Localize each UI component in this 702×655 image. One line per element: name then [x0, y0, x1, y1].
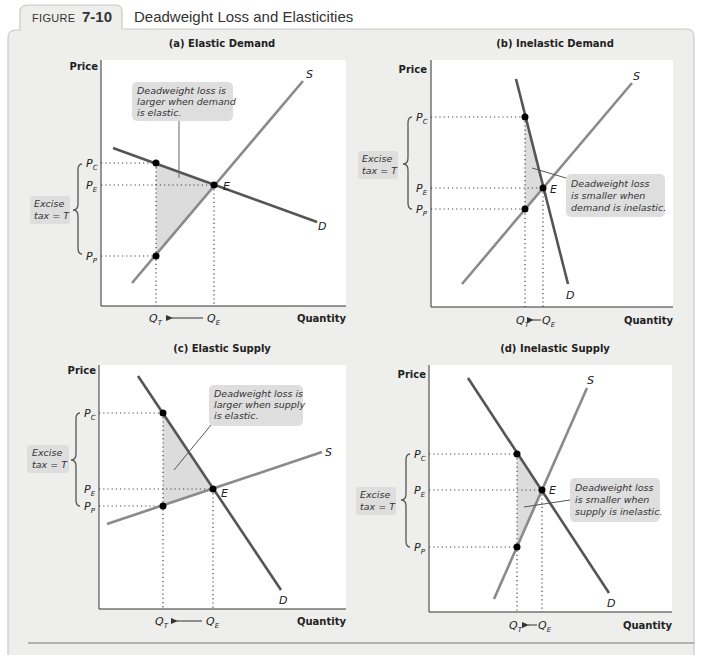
consumer-price-dot	[522, 114, 529, 121]
excise-label: Excise tax = T	[34, 198, 70, 221]
panel-title: (c) Elastic Supply	[173, 343, 271, 354]
y-axis-label: Price	[70, 61, 99, 72]
demand-label: D	[318, 220, 326, 233]
demand-label: D	[607, 597, 615, 610]
x-axis-label: Quantity	[297, 616, 346, 627]
excise-label: Excise tax = T	[362, 153, 398, 176]
equilibrium-dot	[210, 486, 217, 493]
producer-price-dot	[514, 544, 521, 551]
excise-label: Excise tax = T	[360, 489, 396, 512]
excise-label: Excise tax = T	[32, 447, 68, 470]
supply-label: S	[306, 68, 313, 81]
demand-label: D	[566, 289, 574, 302]
callout-text: Deadweight loss is smaller when supply i…	[575, 482, 662, 517]
x-axis-label: Quantity	[624, 315, 673, 326]
consumer-price-dot	[153, 160, 160, 167]
y-axis-label: Price	[68, 365, 97, 376]
panel-title: (a) Elastic Demand	[169, 38, 275, 49]
producer-price-dot	[522, 206, 529, 213]
demand-label: D	[279, 594, 287, 607]
equilibrium-dot	[539, 487, 546, 494]
y-axis-label: Price	[399, 64, 428, 75]
supply-label: S	[325, 446, 332, 459]
panel-title: (b) Inelastic Demand	[496, 38, 614, 49]
equilibrium-dot	[211, 182, 218, 189]
equilibrium-label: E	[550, 183, 557, 196]
supply-label: S	[587, 374, 594, 387]
figure-number: 7-10	[82, 8, 112, 25]
figure-title: Deadweight Loss and Elasticities	[134, 8, 353, 25]
consumer-price-dot	[514, 451, 521, 458]
panel-title: (d) Inelastic Supply	[500, 343, 610, 354]
x-axis-label: Quantity	[297, 313, 346, 324]
x-axis-label: Quantity	[623, 620, 672, 631]
figure-label: FIGURE	[32, 12, 75, 24]
equilibrium-label: E	[223, 180, 230, 193]
producer-price-dot	[160, 503, 167, 510]
producer-price-dot	[153, 253, 160, 260]
equilibrium-label: E	[549, 484, 556, 497]
y-axis-label: Price	[398, 369, 427, 380]
equilibrium-dot	[540, 185, 547, 192]
equilibrium-label: E	[221, 487, 228, 500]
supply-label: S	[633, 70, 640, 83]
consumer-price-dot	[160, 410, 167, 417]
figure-canvas: FIGURE 7-10 Deadweight Loss and Elastici…	[0, 0, 702, 655]
